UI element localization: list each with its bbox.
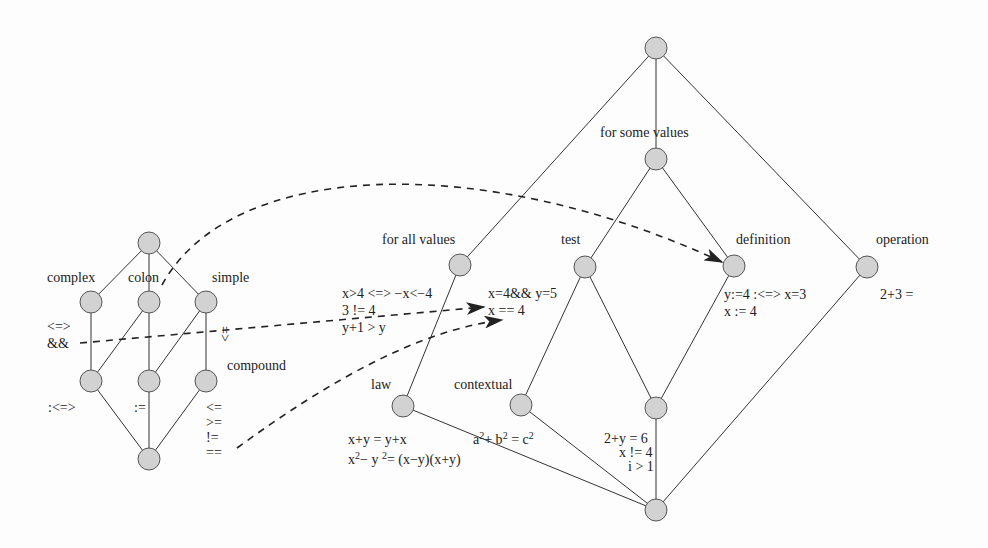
example-definition-1: y:=4 :<=> x=3 xyxy=(724,287,806,302)
label-colon: colon xyxy=(128,270,159,285)
label-complex-op-2: && xyxy=(47,336,69,351)
label-compound-op-1: <= xyxy=(206,400,222,415)
label-definition: definition xyxy=(736,232,790,247)
label-complex: complex xyxy=(47,270,95,285)
example-for-all-3: y+1 > y xyxy=(342,320,386,335)
example-inner-3: i > 1 xyxy=(628,459,654,474)
example-inner-1: 2+y = 6 xyxy=(604,431,648,446)
label-complex-op-1: <=> xyxy=(47,319,71,334)
label-law: law xyxy=(371,377,391,392)
diagram-canvas: complex colon simple <=> && <= compound … xyxy=(0,0,988,548)
example-test-2: x == 4 xyxy=(488,303,525,318)
label-for-some-values: for some values xyxy=(600,125,689,140)
label-simple: simple xyxy=(212,270,249,285)
example-test-1: x=4&& y=5 xyxy=(488,286,557,301)
example-contextual: a2+ b2 = c2 xyxy=(473,432,534,447)
label-contextual: contextual xyxy=(454,377,512,392)
label-compound: compound xyxy=(227,358,286,373)
label-compound-op-3: != xyxy=(206,430,219,445)
example-inner-2: x != 4 xyxy=(619,445,653,460)
example-law-2: x2− y 2= (x−y)(x+y) xyxy=(348,452,461,467)
label-compound-op-4: == xyxy=(206,445,222,460)
label-test: test xyxy=(561,232,580,247)
label-for-all-values: for all values xyxy=(382,232,455,247)
nodes xyxy=(80,37,878,521)
example-for-all-2: 3 != 4 xyxy=(342,303,376,318)
example-definition-2: x := 4 xyxy=(724,304,757,319)
example-law-1: x+y = y+x xyxy=(348,432,407,447)
label-m2-op: := xyxy=(134,400,146,415)
label-compound-op-2: >= xyxy=(206,415,222,430)
label-m1-op: :<=> xyxy=(48,400,76,415)
example-for-all-1: x>4 <=> −x<−4 xyxy=(342,286,432,301)
label-operation: operation xyxy=(876,232,929,247)
label-simple-rotated-op: <= xyxy=(218,326,233,342)
example-operation-1: 2+3 = xyxy=(880,287,913,302)
